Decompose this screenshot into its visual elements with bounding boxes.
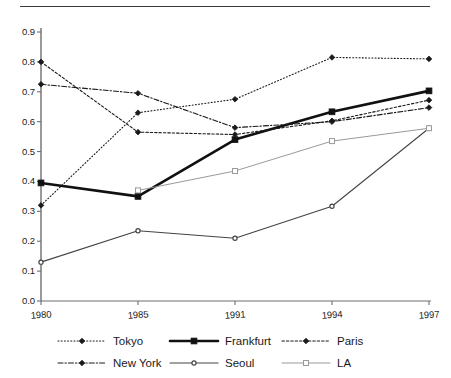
- series-line: [41, 128, 429, 262]
- data-point-marker: [136, 188, 141, 193]
- legend-item-la[interactable]: LA: [280, 357, 392, 369]
- data-point-marker: [330, 139, 335, 144]
- legend-item-frankfurt[interactable]: Frankfurt: [168, 335, 280, 347]
- legend-label: LA: [337, 357, 351, 369]
- chart-legend: TokyoFrankfurtParisNew YorkSeoulLA: [56, 330, 436, 374]
- data-point-marker: [39, 260, 43, 264]
- y-axis-tick-label: 0.2: [5, 235, 35, 246]
- data-point-marker: [232, 125, 238, 131]
- series-line: [41, 84, 429, 127]
- legend-item-seoul[interactable]: Seoul: [168, 357, 280, 369]
- legend-swatch-la: [280, 357, 332, 369]
- y-axis-tick-label: 0.9: [5, 26, 35, 37]
- line-chart-plot: [0, 0, 451, 378]
- series-frankfurt: [38, 88, 432, 199]
- data-point-marker: [329, 109, 335, 115]
- data-point-marker: [192, 361, 196, 365]
- legend-swatch-tokyo: [56, 335, 108, 347]
- legend-label: Tokyo: [113, 335, 143, 347]
- data-point-marker: [329, 55, 335, 61]
- series-line: [41, 91, 429, 197]
- data-point-marker: [426, 97, 432, 103]
- data-point-marker: [233, 168, 238, 173]
- data-point-marker: [304, 361, 309, 366]
- series-la: [136, 126, 432, 193]
- legend-swatch-frankfurt: [168, 335, 220, 347]
- data-point-marker: [38, 180, 44, 186]
- series-new-york: [38, 82, 432, 131]
- data-point-marker: [38, 59, 44, 65]
- data-point-marker: [135, 90, 141, 96]
- y-axis-tick-label: 0.5: [5, 146, 35, 157]
- legend-label: Paris: [337, 335, 363, 347]
- legend-swatch-new-york: [56, 357, 108, 369]
- legend-label: Seoul: [225, 357, 254, 369]
- series-line: [138, 128, 429, 190]
- data-point-marker: [426, 88, 432, 94]
- data-point-marker: [135, 193, 141, 199]
- y-axis-tick-label: 0.7: [5, 86, 35, 97]
- y-axis-tick-label: 0.8: [5, 56, 35, 67]
- data-point-marker: [303, 338, 309, 344]
- legend-swatch-paris: [280, 335, 332, 347]
- data-point-marker: [136, 229, 140, 233]
- legend-item-tokyo[interactable]: Tokyo: [56, 335, 168, 347]
- chart-figure: 0.00.10.20.30.40.50.60.70.80.9 198019851…: [0, 0, 451, 378]
- data-point-marker: [79, 338, 85, 344]
- y-axis-tick-label: 0.0: [5, 295, 35, 306]
- data-point-marker: [426, 105, 432, 111]
- data-point-marker: [233, 236, 237, 240]
- y-axis-tick-label: 0.6: [5, 116, 35, 127]
- data-point-marker: [79, 360, 85, 366]
- legend-item-paris[interactable]: Paris: [280, 335, 392, 347]
- data-point-marker: [38, 82, 44, 88]
- legend-label: Frankfurt: [225, 335, 271, 347]
- series-seoul: [39, 126, 431, 264]
- data-point-marker: [427, 126, 432, 131]
- y-axis-tick-label: 0.4: [5, 175, 35, 186]
- data-point-marker: [330, 204, 334, 208]
- legend-swatch-seoul: [168, 357, 220, 369]
- legend-label: New York: [113, 357, 162, 369]
- data-point-marker: [191, 338, 197, 344]
- data-point-marker: [232, 96, 238, 102]
- y-axis-tick-label: 0.3: [5, 205, 35, 216]
- data-point-marker: [426, 56, 432, 62]
- y-axis-tick-label: 0.1: [5, 265, 35, 276]
- legend-item-new-york[interactable]: New York: [56, 357, 168, 369]
